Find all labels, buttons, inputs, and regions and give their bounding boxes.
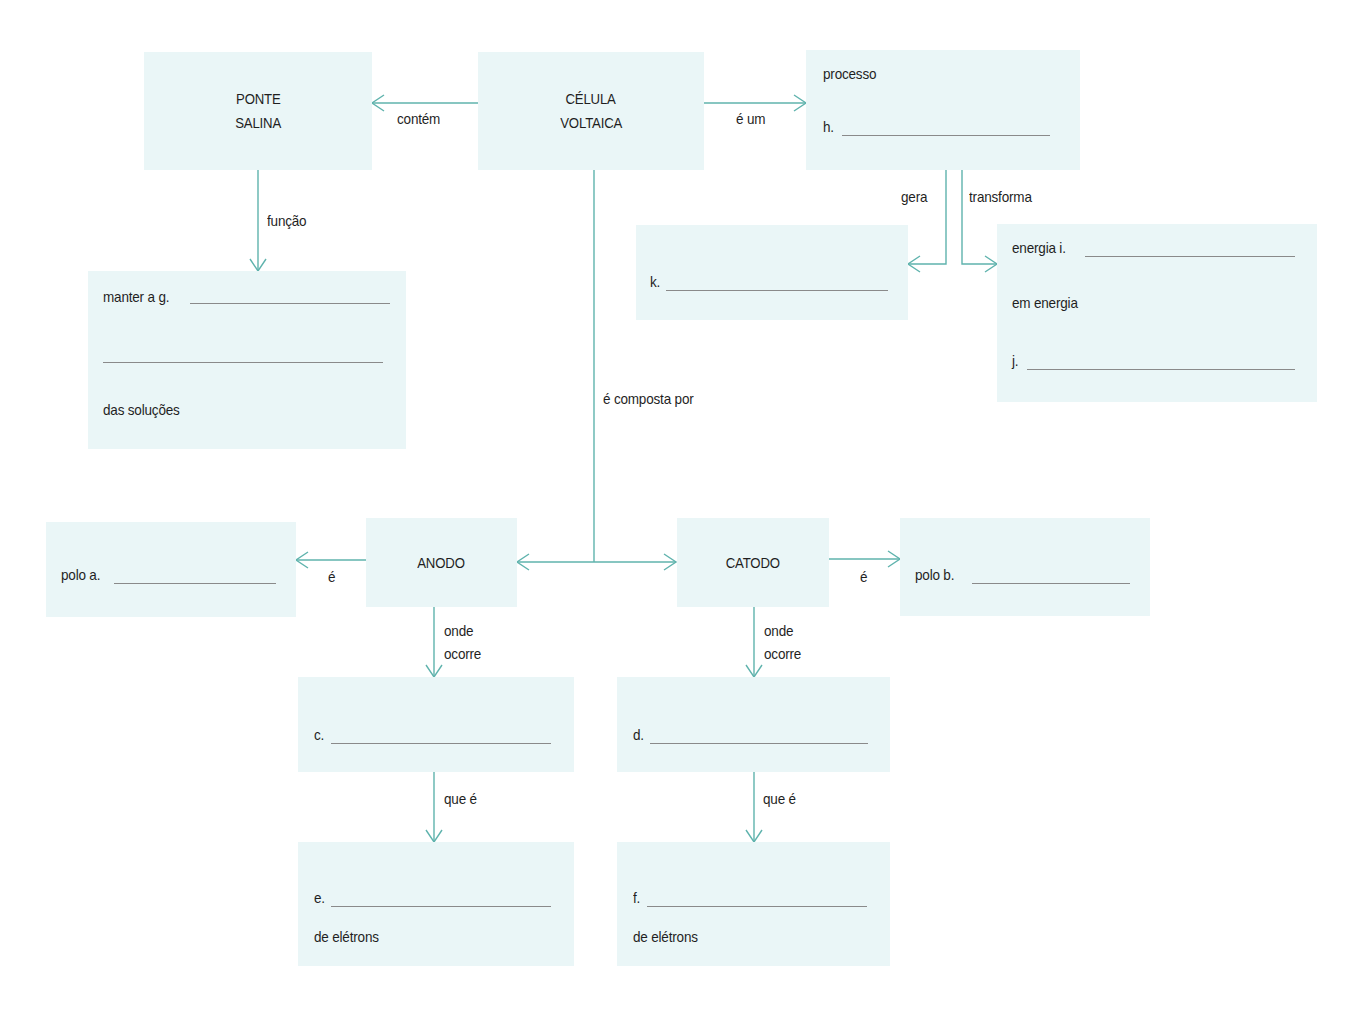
node-f-prefix: f.	[633, 889, 640, 906]
link-label-catodo-e: é	[860, 566, 867, 588]
arrow-anodo-c	[426, 607, 442, 677]
node-energia-j-prefix: j.	[1012, 352, 1018, 369]
blank-j[interactable]	[1027, 369, 1295, 370]
node-celula-line2: VOLTAICA	[560, 111, 622, 135]
blank-e[interactable]	[331, 906, 551, 907]
blank-b[interactable]	[972, 583, 1130, 584]
link-label-anodo-e: é	[328, 566, 335, 588]
arrow-funcao	[250, 170, 266, 271]
node-processo-label: processo	[823, 65, 876, 82]
node-f-suffix: de elétrons	[633, 928, 698, 945]
link-label-anodo-ocorre: ocorre	[444, 643, 481, 665]
node-ponte-line2: SALINA	[235, 111, 281, 135]
link-label-anodo-onde: onde	[444, 620, 473, 642]
node-ponte-salina: PONTE SALINA	[144, 52, 372, 170]
node-energia-middle: em energia	[1012, 294, 1078, 311]
node-funcao-suffix: das soluções	[103, 401, 180, 418]
link-label-e-um: é um	[736, 108, 765, 130]
node-polo-b: polo b.	[900, 518, 1150, 616]
link-label-catodo-onde: onde	[764, 620, 793, 642]
link-label-contem: contém	[397, 108, 440, 130]
node-polo-a: polo a.	[46, 522, 296, 617]
node-catodo[interactable]: CATODO	[677, 518, 829, 607]
node-polo-b-prefix: polo b.	[915, 566, 954, 583]
blank-k[interactable]	[666, 290, 888, 291]
blank-f[interactable]	[647, 906, 867, 907]
blank-i[interactable]	[1085, 256, 1295, 257]
node-k-prefix: k.	[650, 273, 660, 290]
node-k: k.	[636, 225, 908, 320]
arrow-d-f	[746, 772, 762, 842]
concept-map: PONTE SALINA CÉLULA VOLTAICA processo h.…	[0, 0, 1367, 1018]
node-energia: energia i. em energia j.	[997, 224, 1317, 402]
blank-g-line2[interactable]	[103, 362, 383, 363]
node-celula-voltaica: CÉLULA VOLTAICA	[478, 52, 704, 170]
blank-a[interactable]	[114, 583, 276, 584]
link-label-gera: gera	[901, 186, 927, 208]
node-energia-prefix: energia i.	[1012, 239, 1066, 256]
node-celula-line1: CÉLULA	[566, 87, 616, 111]
node-e: e. de elétrons	[298, 842, 574, 966]
blank-d[interactable]	[650, 743, 868, 744]
link-label-catodo-que: que é	[763, 788, 796, 810]
node-d-prefix: d.	[633, 726, 644, 743]
link-label-anodo-que: que é	[444, 788, 477, 810]
node-ponte-line1: PONTE	[236, 87, 281, 111]
node-d: d.	[617, 677, 890, 772]
link-label-transforma: transforma	[969, 186, 1032, 208]
blank-g-line1[interactable]	[190, 303, 390, 304]
node-polo-a-prefix: polo a.	[61, 566, 100, 583]
node-c-prefix: c.	[314, 726, 324, 743]
node-anodo-title: ANODO	[418, 551, 466, 575]
arrow-catodo-polo	[829, 551, 900, 567]
link-label-catodo-ocorre: ocorre	[764, 643, 801, 665]
node-processo-prefix: h.	[823, 118, 834, 135]
link-label-funcao: função	[267, 210, 306, 232]
blank-h[interactable]	[842, 135, 1050, 136]
arrow-c-e	[426, 772, 442, 842]
node-funcao-prefix: manter a g.	[103, 288, 169, 305]
link-label-composta: é composta por	[603, 388, 694, 410]
arrow-catodo-d	[746, 607, 762, 677]
node-e-prefix: e.	[314, 889, 325, 906]
blank-c[interactable]	[331, 743, 551, 744]
node-c: c.	[298, 677, 574, 772]
node-e-suffix: de elétrons	[314, 928, 379, 945]
node-anodo[interactable]: ANODO	[366, 518, 517, 607]
node-processo: processo h.	[806, 50, 1080, 170]
node-catodo-title: CATODO	[726, 551, 780, 575]
node-funcao: manter a g. das soluções	[88, 271, 406, 449]
node-f: f. de elétrons	[617, 842, 890, 966]
